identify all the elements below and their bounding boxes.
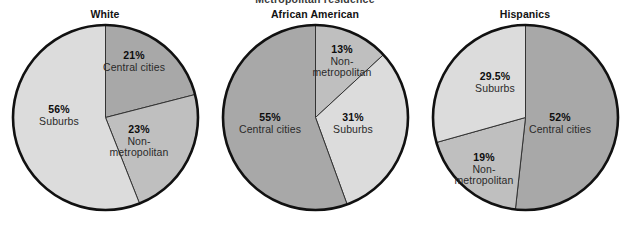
pie-chart-figure: Metropolitan residence White African Ame… <box>0 0 630 227</box>
pie-wrap-white <box>11 22 200 213</box>
pie-chart-white: White <box>0 0 210 227</box>
pie-wrap-hispanics <box>431 22 620 213</box>
chart-title-african-american: African American <box>210 8 420 20</box>
pie-chart-hispanics: Hispanics <box>420 0 630 227</box>
pie-svg-white <box>11 22 200 213</box>
pie-chart-african-american: African American <box>210 0 420 227</box>
pie-svg-hispanics <box>431 22 620 213</box>
pie-slice-hispanics-central-cities <box>515 25 618 210</box>
pie-svg-african-american <box>221 22 410 213</box>
pie-wrap-african-american <box>221 22 410 213</box>
chart-title-white: White <box>0 8 210 20</box>
chart-title-hispanics: Hispanics <box>420 8 630 20</box>
